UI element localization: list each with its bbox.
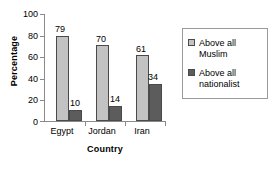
x-tick-mark-3 bbox=[165, 122, 166, 126]
legend-swatch-icon-nationalist bbox=[188, 69, 195, 76]
legend-label-nationalist: Above all nationalist bbox=[199, 68, 263, 90]
plot-area: 79 10 70 14 61 34 bbox=[44, 14, 166, 122]
bar-egypt-muslim bbox=[56, 36, 69, 121]
x-axis-title: Country bbox=[44, 144, 166, 154]
data-label-iran-nationalist: 34 bbox=[148, 73, 158, 82]
chart-legend: Above all Muslim Above all nationalist bbox=[182, 28, 268, 99]
y-tick-mark-0 bbox=[40, 121, 44, 122]
x-axis-line bbox=[44, 121, 166, 122]
legend-item-muslim: Above all Muslim bbox=[187, 38, 263, 60]
bar-jordan-nationalist bbox=[109, 106, 122, 121]
y-tick-label-40: 40 bbox=[16, 75, 38, 83]
y-tick-label-80: 80 bbox=[16, 32, 38, 40]
bar-jordan-muslim bbox=[96, 45, 109, 121]
legend-swatch-icon-muslim bbox=[188, 39, 195, 46]
y-tick-mark-100 bbox=[40, 14, 44, 15]
x-tick-label-jordan: Jordan bbox=[82, 126, 122, 136]
data-label-iran-muslim: 61 bbox=[136, 45, 146, 54]
data-label-egypt-nationalist: 10 bbox=[70, 99, 80, 108]
x-tick-label-iran: Iran bbox=[122, 126, 162, 136]
data-label-jordan-nationalist: 14 bbox=[110, 95, 120, 104]
y-tick-mark-40 bbox=[40, 79, 44, 80]
y-tick-label-60: 60 bbox=[16, 53, 38, 61]
data-label-jordan-muslim: 70 bbox=[96, 35, 106, 44]
legend-label-muslim: Above all Muslim bbox=[199, 38, 263, 60]
y-tick-mark-20 bbox=[40, 100, 44, 101]
y-tick-label-20: 20 bbox=[16, 96, 38, 104]
data-label-egypt-muslim: 79 bbox=[55, 25, 65, 34]
x-tick-label-egypt: Egypt bbox=[42, 126, 82, 136]
y-axis-line bbox=[44, 14, 45, 122]
y-tick-label-100: 100 bbox=[16, 10, 38, 18]
y-axis-tick-labels: 100 80 60 40 20 0 bbox=[14, 0, 38, 170]
legend-item-nationalist: Above all nationalist bbox=[187, 68, 263, 90]
y-tick-mark-60 bbox=[40, 57, 44, 58]
bar-iran-nationalist bbox=[149, 84, 162, 121]
y-tick-mark-80 bbox=[40, 36, 44, 37]
bar-chart-figure: Percentage 100 80 60 40 20 0 79 10 7 bbox=[0, 0, 275, 170]
bar-egypt-nationalist bbox=[69, 110, 82, 121]
y-tick-label-0: 0 bbox=[16, 118, 38, 126]
bar-iran-muslim bbox=[136, 55, 149, 121]
